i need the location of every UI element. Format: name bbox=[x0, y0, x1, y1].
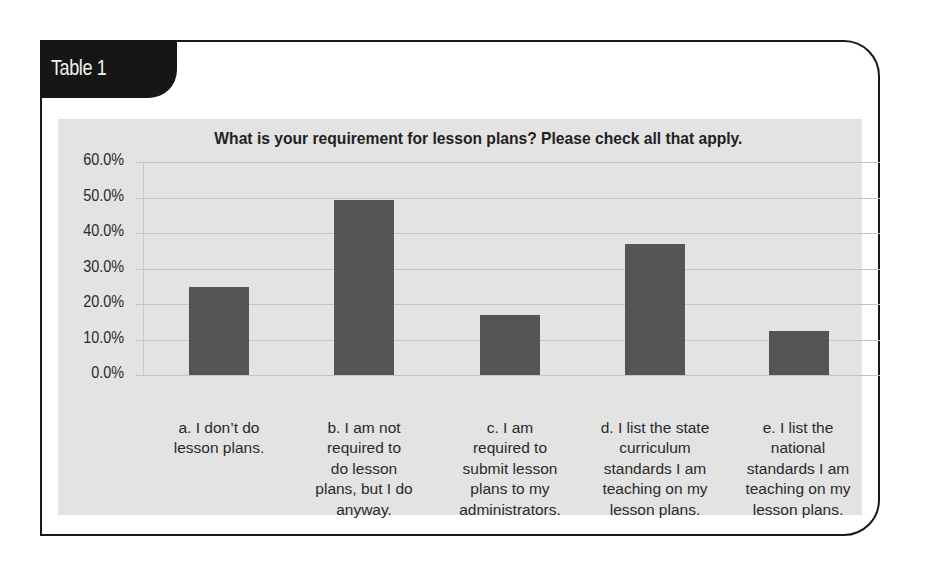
y-tick-label: 30.0% bbox=[65, 258, 124, 276]
x-category-label: a. I don’t dolesson plans. bbox=[149, 397, 289, 479]
bar bbox=[189, 287, 249, 375]
gridline bbox=[136, 269, 880, 270]
table-label: Table 1 bbox=[51, 55, 106, 81]
gridline bbox=[136, 162, 880, 163]
chart-title: What is your requirement for lesson plan… bbox=[90, 129, 830, 149]
bar bbox=[769, 331, 829, 375]
x-category-label: d. I list the statecurriculumstandards I… bbox=[585, 397, 725, 541]
x-category-label: e. I list thenationalstandards I amteach… bbox=[728, 397, 868, 541]
gridline bbox=[136, 198, 880, 199]
y-axis-line bbox=[143, 162, 144, 376]
gridline bbox=[136, 233, 880, 234]
y-tick-label: 50.0% bbox=[65, 187, 124, 205]
y-tick-label: 20.0% bbox=[65, 293, 124, 311]
bar bbox=[480, 315, 540, 375]
bar bbox=[334, 200, 394, 375]
bar bbox=[625, 244, 685, 375]
gridline bbox=[136, 375, 880, 376]
x-category-label: b. I am notrequired todo lessonplans, bu… bbox=[294, 397, 434, 541]
y-tick-label: 10.0% bbox=[65, 329, 124, 347]
x-category-label: c. I amrequired tosubmit lessonplans to … bbox=[440, 397, 580, 541]
y-tick-label: 0.0% bbox=[65, 364, 124, 382]
y-tick-label: 40.0% bbox=[65, 222, 124, 240]
y-tick-label: 60.0% bbox=[65, 151, 124, 169]
